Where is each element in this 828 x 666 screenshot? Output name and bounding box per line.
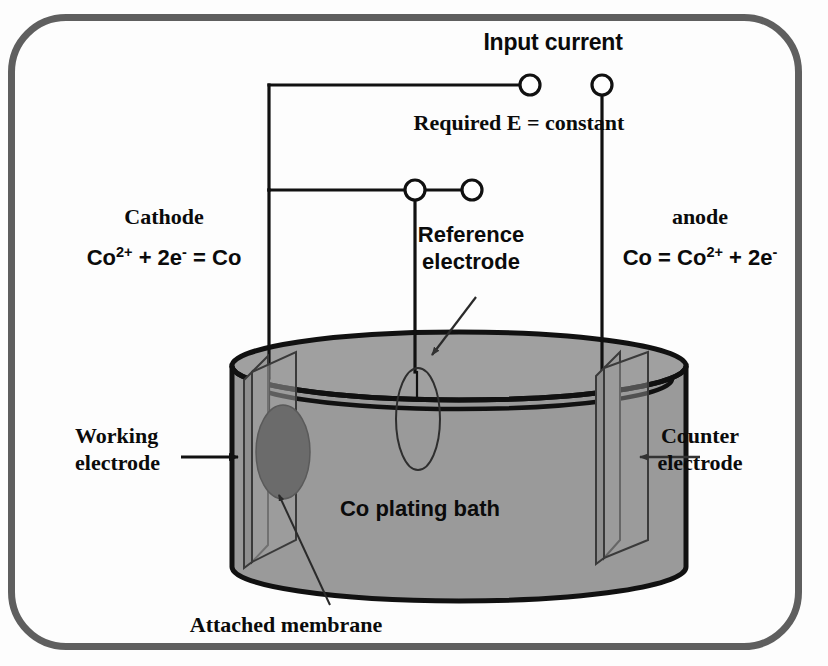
required-potential-label: Required E = constant: [414, 111, 625, 136]
anode-equation-label: Co = Co2+ + 2e-: [623, 246, 778, 271]
reference-terminal-icon[interactable]: [520, 75, 540, 95]
counter-electrode-line2: electrode: [657, 450, 742, 475]
input-current-label: Input current: [483, 30, 622, 56]
cathode-eq-a: Co: [87, 245, 116, 270]
working-terminal-icon[interactable]: [462, 180, 482, 200]
anode-title-label: anode: [672, 205, 728, 230]
cathode-equation-label: Co2+ + 2e- = Co: [87, 246, 242, 271]
working-electrode-edge: [244, 372, 252, 568]
counter-electrode-edge: [596, 368, 604, 564]
anode-eq-a: Co = Co: [623, 245, 707, 270]
probe-terminal-icon[interactable]: [405, 180, 425, 200]
diagram-artwork: [0, 0, 828, 666]
counter-electrode-line1: Counter: [661, 423, 739, 448]
counter-electrode-label: Counterelectrode: [657, 423, 742, 477]
reference-electrode-line2: electrode: [422, 249, 520, 274]
cathode-eq-c: = Co: [187, 245, 241, 270]
bath-label: Co plating bath: [340, 497, 500, 522]
anode-eq-b: + 2e: [723, 245, 773, 270]
working-electrode-line1: Working: [75, 423, 158, 448]
cathode-title-label: Cathode: [124, 205, 203, 230]
anode-eq-sup1: 2+: [706, 244, 723, 260]
cathode-eq-b: + 2e: [133, 245, 183, 270]
anode-eq-sup2: -: [773, 244, 778, 260]
terminal-group: [405, 75, 612, 200]
working-electrode-line2: electrode: [75, 450, 160, 475]
attached-membrane-label: Attached membrane: [190, 613, 382, 638]
reference-electrode-label: Referenceelectrode: [418, 222, 524, 276]
reference-electrode-line1: Reference: [418, 222, 524, 247]
working-electrode-label: Workingelectrode: [75, 423, 160, 477]
counter-terminal-icon[interactable]: [592, 75, 612, 95]
cathode-eq-sup1: 2+: [116, 244, 133, 260]
attached-membrane-ellipse: [256, 405, 310, 499]
diagram-canvas: Input current Required E = constant Cath…: [0, 0, 828, 666]
counter-electrode-front-face: [604, 352, 648, 558]
